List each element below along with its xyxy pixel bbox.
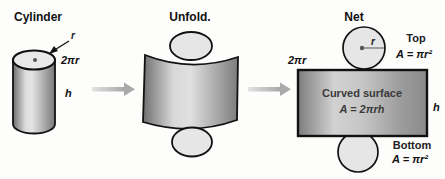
net-center-dot <box>360 46 364 50</box>
unfold-bottom-disc <box>172 128 212 157</box>
flow-arrow-2 <box>248 83 291 97</box>
cylinder-body <box>13 60 55 134</box>
flow-arrow-1-shaft <box>92 87 124 92</box>
radius-pointer-arrowhead <box>49 46 58 54</box>
flow-arrow-1 <box>92 83 135 97</box>
unfold-title: Unfold. <box>169 10 210 24</box>
net-title: Net <box>344 10 363 24</box>
net-bottom-disc <box>338 132 378 172</box>
diagram-canvas: Cylinder Unfold. Net r 2πr h r <box>0 0 445 179</box>
cylinder-figure: r 2πr h <box>13 30 80 134</box>
top-caption: Top <box>406 32 426 44</box>
net-height-label: h <box>433 101 440 113</box>
cylinder-radius-label: r <box>71 30 76 41</box>
top-area-formula: A = πr² <box>395 48 432 60</box>
curved-surface-caption: Curved surface <box>322 87 402 99</box>
cylinder-height-label: h <box>65 87 72 99</box>
flow-arrow-1-head <box>124 83 135 97</box>
unrolling-sheet <box>143 55 238 129</box>
net-circumference-label: 2πr <box>287 54 307 66</box>
cylinder-net-diagram: Cylinder Unfold. Net r 2πr h r <box>0 0 445 179</box>
flow-arrow-2-head <box>280 83 291 97</box>
flow-arrow-2-shaft <box>248 87 280 92</box>
cylinder-circumference-label: 2πr <box>60 54 80 66</box>
bottom-caption: Bottom <box>393 139 432 151</box>
unfold-figure <box>143 32 238 157</box>
cylinder-title: Cylinder <box>14 10 62 24</box>
cylinder-center-dot <box>33 58 37 62</box>
bottom-area-formula: A = πr² <box>391 153 428 165</box>
unfold-top-disc <box>170 32 212 60</box>
net-figure: r Curved surface A = 2πrh 2πr h Top A = … <box>287 27 440 172</box>
curved-surface-area-formula: A = 2πrh <box>338 103 384 115</box>
